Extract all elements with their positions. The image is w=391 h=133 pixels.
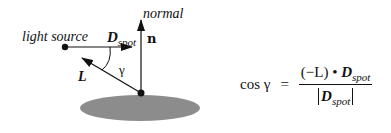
light-source-label: light source	[22, 30, 88, 44]
formula-fraction: (−L) • Dspot Dspot	[299, 64, 373, 105]
formula-equals: =	[280, 76, 288, 93]
denominator-subscript: spot	[332, 95, 350, 107]
denominator-d: D	[321, 88, 332, 104]
light-vector-arrow	[82, 58, 141, 93]
numerator-prefix: (−L) •	[301, 64, 341, 80]
numerator-subscript: spot	[352, 71, 370, 83]
formula-denominator: Dspot	[318, 85, 353, 105]
formula-lhs: cos γ	[240, 76, 270, 93]
d-spot-main: D	[107, 29, 118, 45]
light-vector-label: L	[78, 70, 87, 84]
normal-vector-label: n	[147, 32, 156, 45]
cosine-formula: cos γ = (−L) • Dspot Dspot	[240, 54, 372, 114]
magnitude-bars: Dspot	[318, 88, 353, 105]
numerator-d: D	[341, 64, 352, 80]
d-spot-subscript: spot	[118, 36, 136, 48]
illuminated-surface	[80, 95, 200, 121]
normal-label: normal	[143, 7, 183, 21]
gamma-label: γ	[119, 63, 125, 76]
surface-point	[138, 90, 145, 97]
d-spot-label: Dspot	[107, 30, 136, 45]
gamma-angle-arc	[102, 47, 110, 70]
light-source-point	[62, 44, 68, 50]
formula-numerator: (−L) • Dspot	[299, 64, 373, 85]
